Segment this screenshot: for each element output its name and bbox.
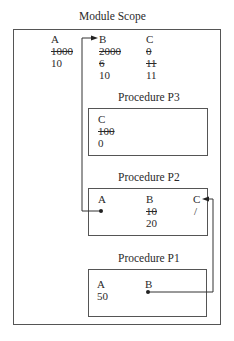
connector-p1b-to-p2c: [148, 199, 213, 292]
p2-a-pointer-dot: [99, 209, 103, 213]
arrowhead-p2-c: [202, 197, 209, 202]
p1-b-pointer-dot: [146, 290, 150, 294]
arrowhead-module-b: [91, 36, 98, 41]
connector-p2a-to-module-b: [82, 38, 101, 211]
reference-connectors: [0, 0, 234, 341]
